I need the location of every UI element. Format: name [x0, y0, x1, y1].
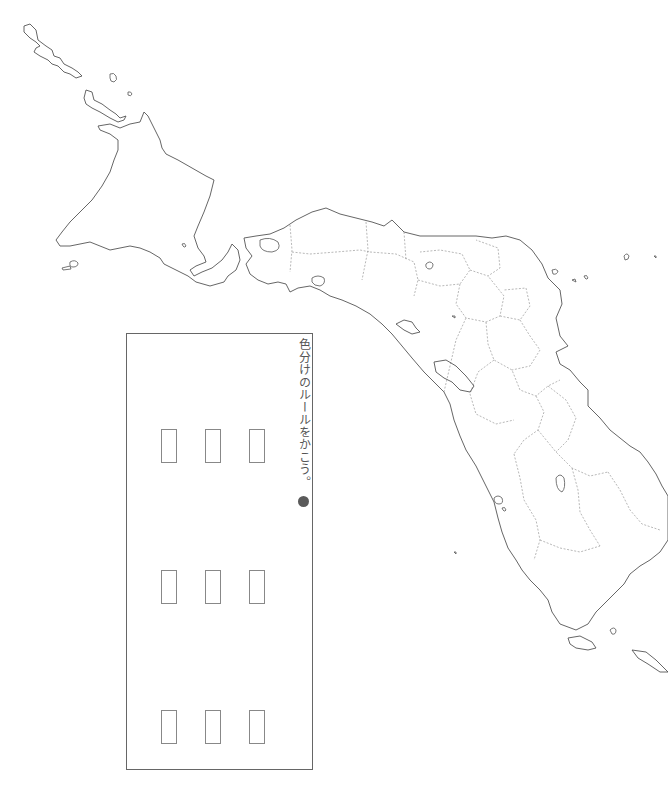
blank-outline-map	[0, 0, 668, 787]
island-east-1	[552, 269, 558, 274]
color-swatch-r2c2[interactable]	[205, 570, 221, 604]
color-rule-box	[126, 333, 313, 770]
landmass-north	[56, 112, 240, 286]
island-south-1	[568, 636, 596, 650]
lake-3	[426, 262, 433, 269]
color-swatch-r3c2[interactable]	[205, 710, 221, 744]
island-east-5	[654, 256, 656, 258]
lake-4	[556, 475, 565, 492]
island-small-5	[182, 243, 186, 247]
island-south-2	[610, 628, 616, 634]
peninsula-south	[434, 360, 474, 392]
color-swatch-r3c1[interactable]	[161, 710, 177, 744]
island-small-6	[454, 552, 456, 554]
island-small-7	[452, 316, 455, 318]
island-west-2	[502, 507, 506, 511]
instruction-text: 色分けのルールをかこう。	[296, 338, 310, 488]
island-small-4	[62, 266, 71, 270]
island-small-2	[128, 92, 132, 96]
island-south-3	[632, 650, 668, 672]
color-swatch-r2c1[interactable]	[161, 570, 177, 604]
island-west-1	[494, 496, 503, 504]
lake-2	[312, 276, 325, 286]
instruction-heading: 色分けのルールをかこう。	[296, 338, 310, 507]
island-small-3	[70, 261, 78, 267]
island-east-4	[624, 254, 629, 260]
lake-1	[260, 238, 279, 252]
color-swatch-r3c3[interactable]	[249, 710, 265, 744]
bullet-icon	[298, 496, 309, 507]
island-east-3	[572, 279, 576, 282]
color-swatch-r1c1[interactable]	[161, 429, 177, 463]
color-swatch-r1c2[interactable]	[205, 429, 221, 463]
prefecture-borders	[290, 222, 660, 560]
island-small-1	[110, 73, 117, 82]
island-northwest-2	[84, 90, 126, 122]
island-east-2	[584, 275, 588, 279]
color-swatch-r1c3[interactable]	[249, 429, 265, 463]
peninsula-bay	[396, 320, 420, 334]
color-swatch-r2c3[interactable]	[249, 570, 265, 604]
island-northwest-1	[24, 24, 82, 78]
